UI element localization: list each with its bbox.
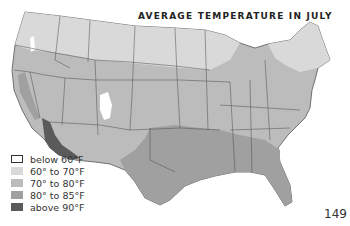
legend-item-70-80: 70° to 80°F	[11, 177, 85, 189]
swatch-80-85	[11, 191, 23, 199]
swatch-70-80	[11, 179, 23, 187]
map-title: AVERAGE TEMPERATURE IN JULY	[138, 11, 333, 21]
swatch-above-90	[11, 203, 23, 211]
legend-item-80-85: 80° to 85°F	[11, 189, 85, 201]
legend: below 60°F 60° to 70°F 70° to 80°F 80° t…	[11, 153, 85, 213]
legend-label: below 60°F	[30, 154, 83, 165]
swatch-below-60	[11, 155, 23, 163]
legend-item-below-60: below 60°F	[11, 153, 85, 165]
legend-label: 80° to 85°F	[30, 190, 85, 201]
swatch-60-70	[11, 167, 23, 175]
legend-item-60-70: 60° to 70°F	[11, 165, 85, 177]
legend-label: 70° to 80°F	[30, 178, 85, 189]
legend-item-above-90: above 90°F	[11, 201, 85, 213]
legend-label: 60° to 70°F	[30, 166, 85, 177]
page-number: 149	[324, 207, 347, 221]
legend-label: above 90°F	[30, 202, 84, 213]
